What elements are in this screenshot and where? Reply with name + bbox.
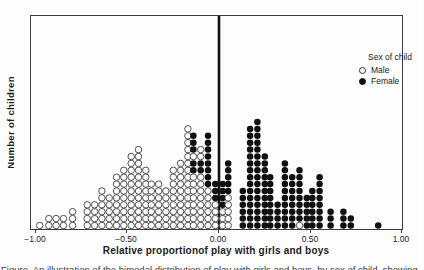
male-dot (177, 202, 184, 209)
male-dot (170, 188, 177, 195)
male-dot (170, 208, 177, 215)
male-dot (155, 202, 162, 209)
male-dot (190, 181, 197, 188)
x-tick-label: 1.00 (393, 234, 410, 244)
male-dot (121, 208, 128, 215)
female-dot (205, 133, 212, 140)
female-dot (282, 222, 289, 229)
female-dot (205, 174, 212, 181)
clipped-caption-text: Figure. An illustration of the bimodal d… (1, 264, 420, 270)
male-dot (197, 195, 204, 202)
female-dot (247, 174, 254, 181)
female-dot (197, 167, 204, 174)
female-dot (212, 188, 219, 195)
male-dot (135, 153, 142, 160)
female-dot (282, 181, 289, 188)
male-dot (212, 202, 219, 209)
male-dot (113, 215, 120, 222)
female-dot (205, 181, 212, 188)
female-dot (296, 167, 303, 174)
female-dot (205, 153, 212, 160)
male-dot (128, 167, 135, 174)
male-dot (197, 146, 204, 153)
male-dot (113, 202, 120, 209)
male-dot (46, 222, 53, 229)
female-dot (247, 222, 254, 229)
male-dot (60, 222, 67, 229)
male-dot (128, 222, 135, 229)
female-dot (254, 126, 261, 132)
male-dot (143, 167, 150, 174)
female-dot (225, 188, 232, 195)
male-dot (177, 215, 184, 222)
male-dot (91, 222, 98, 229)
male-dot (177, 222, 184, 229)
male-dot (190, 222, 197, 229)
female-dot (205, 167, 212, 174)
male-dot (148, 215, 155, 222)
female-dot (267, 188, 274, 195)
male-dot (135, 195, 142, 202)
male-dot (135, 215, 142, 222)
female-dot (289, 195, 296, 202)
female-dot (282, 167, 289, 174)
x-tick-mark (310, 229, 311, 233)
male-dot (99, 202, 106, 209)
female-dot (296, 202, 303, 209)
legend-item-male: Male (359, 65, 424, 75)
male-dot (46, 215, 53, 222)
male-dot (128, 195, 135, 202)
female-dot (212, 181, 219, 188)
male-dot (99, 195, 106, 202)
male-dot (84, 215, 91, 222)
female-dot (225, 160, 232, 167)
male-dot (121, 167, 128, 174)
male-dot (135, 167, 142, 174)
male-dot (177, 208, 184, 215)
male-dot (113, 188, 120, 195)
male-dot (121, 181, 128, 188)
male-dot (177, 167, 184, 174)
female-dot (247, 208, 254, 215)
male-dot (113, 208, 120, 215)
male-dot (128, 208, 135, 215)
legend-label-female: Female (371, 76, 399, 86)
male-dot (135, 146, 142, 153)
female-dot (282, 202, 289, 209)
female-dot (247, 133, 254, 140)
female-dot (289, 188, 296, 195)
female-dot (240, 222, 247, 229)
female-dot (247, 139, 254, 146)
female-dot (254, 202, 261, 209)
x-tick-mark (218, 229, 219, 233)
male-dot (212, 222, 219, 229)
female-dot (247, 202, 254, 209)
male-dot (106, 202, 113, 209)
female-dot (267, 208, 274, 215)
male-dot (84, 202, 91, 209)
female-dot (212, 195, 219, 202)
male-dot (121, 215, 128, 222)
male-dot (91, 215, 98, 222)
female-dot (262, 167, 269, 174)
male-dot (69, 208, 76, 215)
male-dot (177, 160, 184, 167)
male-dot (128, 160, 135, 167)
female-dot (375, 222, 382, 229)
female-dot (225, 167, 232, 174)
female-dot (267, 195, 274, 202)
female-dot (296, 181, 303, 188)
female-dot (254, 160, 261, 167)
male-dot (128, 202, 135, 209)
male-dot (185, 126, 192, 132)
male-dot (155, 215, 162, 222)
female-dot (254, 153, 261, 160)
female-dot (316, 174, 323, 181)
male-dot (143, 174, 150, 181)
female-dot (316, 181, 323, 188)
male-dot (225, 215, 232, 222)
male-dot (121, 188, 128, 195)
female-dot (348, 215, 355, 222)
female-dot (240, 202, 247, 209)
female-dot (190, 167, 197, 174)
